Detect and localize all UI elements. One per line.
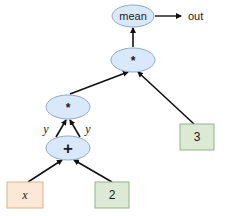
edge-add-to-mul-right	[70, 120, 80, 137]
edge-2-to-add	[74, 160, 112, 182]
edge-mulmid-to-multop	[70, 72, 128, 94]
node-add-label: +	[63, 139, 73, 158]
edge-add-to-mul-left	[56, 120, 66, 137]
output-label: out	[188, 10, 203, 22]
edge-label-y-right: y	[84, 122, 91, 136]
node-input-x: x	[7, 182, 43, 208]
edge-label-y-left: y	[42, 122, 49, 136]
node-multiply-mid: *	[46, 95, 90, 119]
node-constant-3: 3	[180, 124, 214, 150]
node-multiply-top-label: *	[131, 54, 136, 68]
node-input-x-label: x	[21, 188, 28, 202]
node-add: +	[46, 136, 90, 160]
node-multiply-mid-label: *	[66, 101, 71, 115]
node-constant-2: 2	[95, 182, 129, 208]
edge-x-to-add	[28, 160, 62, 182]
node-multiply-top: *	[111, 48, 155, 72]
node-constant-3-label: 3	[194, 130, 201, 144]
computation-graph: y y mean out * * + x 2 3	[0, 0, 232, 216]
node-mean: mean	[112, 5, 154, 27]
edge-3-to-multop	[138, 72, 194, 124]
node-constant-2-label: 2	[109, 188, 116, 202]
node-mean-label: mean	[119, 10, 147, 22]
